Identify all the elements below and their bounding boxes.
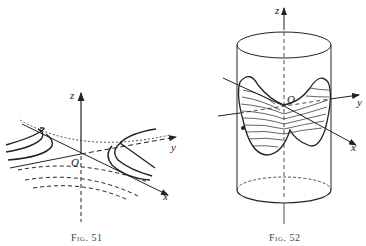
y-axis-dashed	[81, 137, 176, 154]
fig51-y-label: y	[170, 141, 176, 153]
contour-lines	[241, 88, 329, 147]
x-axis-back	[223, 78, 284, 106]
fig52-caption: Fig. 52	[269, 232, 300, 243]
left-hyperbola-1	[6, 128, 44, 145]
fig51-caption: Fig. 51	[71, 232, 102, 243]
right-hyperbola-1	[120, 129, 156, 168]
figure-52	[218, 8, 359, 224]
dashed-curve-1	[18, 166, 148, 182]
fig52-y-label: y	[356, 96, 362, 108]
fig52-x-label: x	[350, 141, 356, 153]
fig51-z-label: z	[69, 89, 75, 101]
figure-51	[6, 93, 176, 222]
saddle-outline	[239, 77, 331, 155]
fig51-origin-label: O	[71, 156, 79, 168]
y-axis-front	[330, 95, 359, 99]
left-hyperbola-3	[8, 134, 52, 160]
left-hyperbola-2	[6, 129, 43, 152]
figures-canvas: z y x O	[0, 0, 366, 246]
fig51-x-label: x	[162, 190, 168, 202]
y-axis-inner	[240, 99, 330, 113]
point-marker	[242, 127, 245, 130]
x-axis	[22, 124, 168, 195]
x-axis-front	[284, 106, 356, 145]
fig52-z-label: z	[274, 4, 280, 16]
fig52-origin-label: O	[287, 93, 295, 105]
